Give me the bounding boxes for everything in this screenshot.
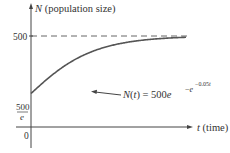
y-axis-label: N (population size)	[34, 3, 116, 15]
function-exponent-exponent: −0.05t	[195, 81, 211, 87]
y-axis-arrowhead-icon	[29, 3, 33, 9]
logistic-growth-chart: N (population size) t (time) 500 500 e 0…	[0, 0, 230, 153]
x-axis-label: t (time)	[197, 122, 229, 134]
y-tick-500-over-e-denominator: e	[20, 112, 24, 122]
y-tick-0: 0	[24, 131, 29, 141]
function-exponent: −e	[185, 85, 194, 94]
population-curve	[31, 37, 186, 93]
function-annotation: N(t) = 500e	[122, 89, 172, 101]
annotation-pointer	[95, 92, 121, 95]
annotation-arrowhead-icon	[91, 90, 97, 94]
y-tick-500: 500	[13, 32, 28, 42]
x-axis-arrowhead-icon	[187, 125, 193, 129]
y-tick-500-over-e-numerator: 500	[16, 102, 30, 112]
